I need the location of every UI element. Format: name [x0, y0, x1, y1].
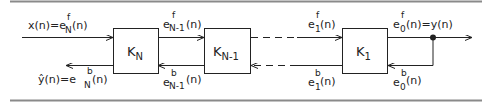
svg-text:N: N	[84, 80, 91, 90]
svg-text:ŷ(n)=e: ŷ(n)=e	[38, 73, 76, 86]
lattice-diagram: KN KN-1 K1 x(n)=e f N (n) ŷ(n)=e b N (n)…	[0, 0, 495, 102]
svg-text:x(n)=e: x(n)=e	[28, 19, 66, 32]
svg-text:(n): (n)	[92, 73, 108, 86]
block-kn-1: KN-1	[205, 29, 251, 74]
svg-text:(n): (n)	[186, 18, 202, 31]
svg-text:K1: K1	[356, 44, 371, 62]
label-f-n-1: e f N-1 (n)	[163, 10, 202, 33]
svg-text:e: e	[393, 18, 400, 31]
svg-text:KN: KN	[127, 44, 143, 62]
svg-text:KN-1: KN-1	[213, 44, 239, 62]
svg-text:(n): (n)	[320, 18, 336, 31]
label-f-1: e f 1 (n)	[308, 10, 336, 34]
label-b-0: e b 0 (n)	[393, 68, 422, 92]
svg-text:(n): (n)	[406, 74, 422, 87]
svg-text:N: N	[65, 25, 72, 35]
label-b-n-1: e b N-1 (n)	[163, 68, 202, 91]
svg-text:N-1: N-1	[169, 81, 185, 91]
svg-text:b: b	[171, 68, 177, 78]
label-output-hat: ŷ(n)=e b N (n)	[38, 66, 108, 90]
svg-text:(n): (n)	[72, 19, 88, 32]
svg-text:(n)=y(n): (n)=y(n)	[406, 18, 453, 31]
block-kn: KN	[114, 29, 159, 74]
svg-text:N-1: N-1	[169, 23, 185, 33]
label-b-1: e b 1 (n)	[308, 68, 336, 92]
svg-text:f: f	[172, 10, 176, 20]
block-k1: K1	[343, 29, 388, 74]
svg-text:(n): (n)	[186, 73, 202, 86]
svg-text:e: e	[308, 76, 315, 89]
svg-text:f: f	[401, 10, 405, 20]
label-input: x(n)=e f N (n)	[28, 12, 88, 35]
svg-text:e: e	[308, 18, 315, 31]
svg-text:f: f	[67, 12, 71, 22]
svg-text:e: e	[393, 76, 400, 89]
feedback-path	[388, 38, 433, 66]
svg-text:(n): (n)	[320, 75, 336, 88]
label-f-0: e f 0 (n)=y(n)	[393, 10, 453, 34]
